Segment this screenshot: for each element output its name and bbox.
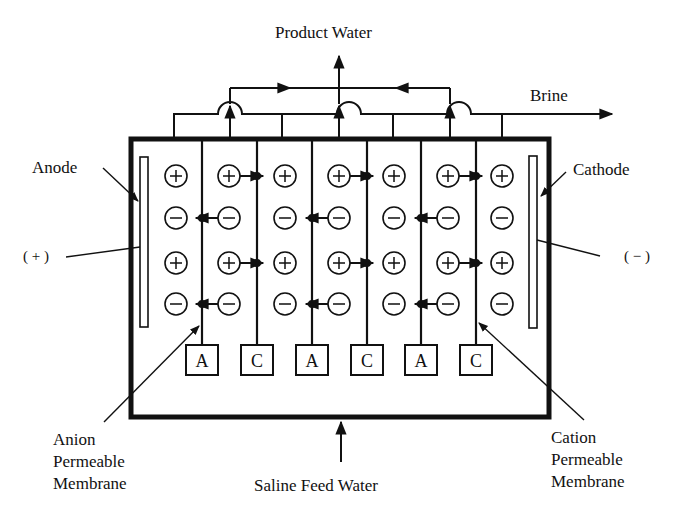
ions	[165, 165, 513, 315]
label-line: Permeable	[551, 450, 625, 470]
anode-electrode	[140, 157, 148, 327]
brine-manifold	[174, 102, 612, 139]
ion-migration-arrows	[196, 173, 482, 307]
product-water-manifold	[230, 56, 450, 139]
svg-text:A: A	[306, 351, 319, 371]
cathode-polarity-label: ( − )	[624, 246, 650, 266]
svg-text:C: C	[251, 351, 263, 371]
svg-text:C: C	[470, 351, 482, 371]
anion-permeable-membrane-label: Anion Permeable Membrane	[53, 430, 127, 494]
svg-text:C: C	[361, 351, 373, 371]
svg-text:A: A	[196, 351, 209, 371]
saline-feed-water-label: Saline Feed Water	[254, 476, 378, 496]
label-line: Anion	[53, 430, 127, 450]
anode-label: Anode	[32, 158, 77, 178]
brine-label: Brine	[530, 86, 568, 106]
svg-text:A: A	[415, 351, 428, 371]
membrane-type-letters: A C A C A C	[196, 351, 483, 371]
label-line: Permeable	[53, 452, 127, 472]
membrane-type-boxes	[186, 345, 492, 375]
label-line: Cation	[551, 428, 625, 448]
label-line: Membrane	[53, 474, 127, 494]
label-line: Membrane	[551, 472, 625, 492]
cathode-label: Cathode	[573, 160, 630, 180]
product-water-label: Product Water	[275, 23, 372, 43]
cathode-electrode	[529, 156, 537, 328]
cation-permeable-membrane-label: Cation Permeable Membrane	[551, 428, 625, 492]
anode-polarity-label: ( + )	[23, 246, 49, 266]
ion-signs	[170, 170, 508, 304]
